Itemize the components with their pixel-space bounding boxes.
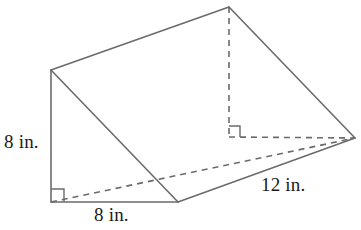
length-dimension-label: 12 in. (261, 175, 305, 194)
geometry-figure-container: 8 in. 8 in. 12 in. (0, 0, 361, 230)
triangular-prism-drawing (0, 0, 361, 230)
base-dimension-label: 8 in. (94, 205, 129, 224)
height-dimension-label: 8 in. (4, 132, 39, 151)
